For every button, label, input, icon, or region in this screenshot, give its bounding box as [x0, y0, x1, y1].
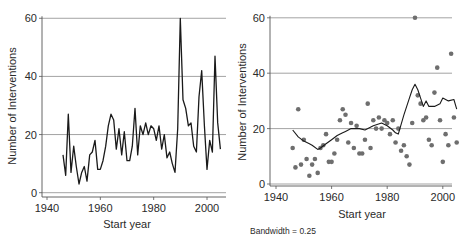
data-point	[399, 148, 404, 153]
data-point	[413, 15, 418, 20]
data-point	[315, 171, 320, 176]
data-point	[390, 118, 395, 123]
data-point	[307, 173, 312, 178]
bandwidth-annotation: Bandwidth = 0.25	[250, 226, 316, 236]
data-point	[340, 107, 345, 112]
data-point	[371, 118, 376, 123]
x-tick-label: 1980	[375, 191, 399, 203]
data-point	[310, 162, 315, 167]
left-y-ticks: 0204060	[25, 12, 42, 198]
right-x-ticks: 1940196019802000	[264, 186, 455, 203]
data-point	[332, 151, 337, 156]
y-tick-label: 0	[31, 187, 37, 199]
x-tick-label: 2000	[431, 191, 455, 203]
left-x-ticks: 1940196019802000	[35, 197, 220, 214]
data-point	[438, 118, 443, 123]
data-point	[404, 154, 409, 159]
x-tick-label: 1940	[264, 191, 288, 203]
data-point	[407, 162, 412, 167]
y-tick-label: 0	[259, 178, 265, 190]
data-point	[443, 132, 448, 137]
data-point	[329, 160, 334, 165]
x-tick-label: 1960	[319, 191, 343, 203]
data-point	[374, 126, 379, 131]
right-y-ticks: 0204060	[253, 12, 270, 190]
data-point	[343, 112, 348, 117]
data-point	[360, 151, 365, 156]
data-point	[365, 101, 370, 106]
data-point	[452, 115, 457, 120]
data-point	[402, 143, 407, 148]
x-tick-label: 1960	[88, 202, 112, 214]
x-tick-label: 1980	[141, 202, 165, 214]
data-point	[424, 115, 429, 120]
y-tick-label: 60	[253, 12, 265, 24]
data-point	[379, 126, 384, 131]
data-point	[299, 162, 304, 167]
data-point	[313, 157, 318, 162]
left-x-axis-label: Start year	[103, 218, 151, 230]
data-point	[296, 107, 301, 112]
data-point	[441, 160, 446, 165]
y-tick-label: 40	[25, 70, 37, 82]
data-point	[377, 115, 382, 120]
data-point	[432, 90, 437, 95]
figure: 0204060 1940196019802000 Number of Inter…	[0, 0, 462, 240]
chart-canvas: 0204060 1940196019802000 Number of Inter…	[0, 0, 462, 240]
right-gridlines	[270, 18, 452, 184]
data-point	[388, 132, 393, 137]
right-x-axis-label: Start year	[338, 208, 386, 220]
data-point	[346, 140, 351, 145]
data-point	[363, 137, 368, 142]
x-tick-label: 1940	[35, 202, 59, 214]
left-y-axis-label: Number of Interventions	[6, 47, 18, 165]
lowess-smooth-line	[293, 84, 457, 149]
data-point	[449, 52, 454, 57]
data-point	[324, 132, 329, 137]
data-point	[454, 140, 459, 145]
data-point	[368, 146, 373, 151]
right-panel-scatter-chart: 0204060 1940196019802000 Number of Inter…	[236, 12, 459, 236]
data-point	[290, 146, 295, 151]
x-tick-label: 2000	[195, 202, 219, 214]
left-panel-line-chart: 0204060 1940196019802000 Number of Inter…	[6, 12, 226, 230]
data-point	[429, 143, 434, 148]
data-point	[427, 137, 432, 142]
data-point	[354, 124, 359, 129]
observed-points	[290, 15, 459, 177]
interventions-line	[63, 18, 220, 184]
data-point	[293, 165, 298, 170]
data-point	[338, 118, 343, 123]
y-tick-label: 40	[253, 67, 265, 79]
data-point	[446, 143, 451, 148]
data-point	[393, 140, 398, 145]
y-tick-label: 60	[25, 12, 37, 24]
y-tick-label: 20	[253, 123, 265, 135]
data-point	[410, 121, 415, 126]
right-y-axis-label: Number of Interventions	[236, 43, 248, 161]
data-point	[335, 137, 340, 142]
y-tick-label: 20	[25, 129, 37, 141]
data-point	[349, 121, 354, 126]
data-point	[304, 157, 309, 162]
data-point	[352, 146, 357, 151]
data-point	[435, 65, 440, 70]
